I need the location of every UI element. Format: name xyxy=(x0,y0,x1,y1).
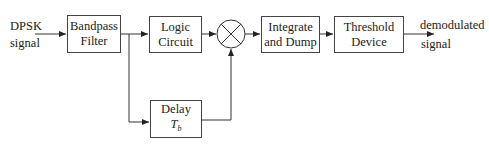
multiplier-cross-circle-icon xyxy=(217,20,245,48)
logic-circuit-block: Logic Circuit xyxy=(149,16,202,53)
delay-symbol-wrap: Tb xyxy=(171,117,182,136)
delay-subscript: b xyxy=(177,124,181,133)
bandpass-filter-block: Bandpass Filter xyxy=(67,15,121,53)
integrate-line2: and Dump xyxy=(264,35,316,50)
output-label-line2: signal xyxy=(421,37,451,52)
arrow-bandpass-to-delay xyxy=(129,34,149,122)
output-label-line1: demodulated xyxy=(420,18,485,33)
integrate-line1: Integrate xyxy=(268,20,312,35)
input-label: DPSK signal xyxy=(10,19,42,51)
threshold-line2: Device xyxy=(351,35,386,50)
logic-line2: Circuit xyxy=(158,35,193,50)
threshold-device-block: Threshold Device xyxy=(334,16,404,53)
bandpass-line2: Filter xyxy=(80,34,107,49)
threshold-line1: Threshold xyxy=(344,20,395,35)
delay-block: Delay Tb xyxy=(150,100,202,138)
delay-line1: Delay xyxy=(161,102,191,117)
integrate-and-dump-block: Integrate and Dump xyxy=(261,16,320,53)
logic-line1: Logic xyxy=(161,20,190,35)
bandpass-line1: Bandpass xyxy=(70,19,118,34)
input-label-line1: DPSK xyxy=(10,19,42,34)
input-label-line2: signal xyxy=(10,36,42,51)
arrow-delay-to-multiplier xyxy=(202,49,231,120)
